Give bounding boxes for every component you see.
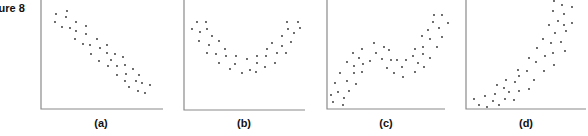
data-point bbox=[265, 55, 267, 57]
data-point bbox=[75, 21, 77, 23]
data-point bbox=[241, 72, 243, 74]
data-point bbox=[478, 104, 480, 106]
data-point bbox=[393, 72, 395, 74]
data-point bbox=[343, 97, 345, 99]
data-point bbox=[218, 62, 220, 64]
data-point bbox=[234, 63, 236, 65]
data-point bbox=[505, 79, 507, 81]
data-point bbox=[362, 63, 364, 65]
data-point bbox=[561, 4, 563, 6]
data-point bbox=[535, 61, 537, 63]
data-point bbox=[373, 42, 375, 44]
data-point bbox=[441, 36, 443, 38]
panel-label-a: (a) bbox=[94, 117, 107, 129]
data-point bbox=[61, 26, 63, 28]
data-point bbox=[498, 104, 500, 106]
data-point bbox=[116, 74, 118, 76]
data-point bbox=[124, 64, 126, 66]
data-point bbox=[353, 72, 355, 74]
data-point bbox=[353, 65, 355, 67]
data-point bbox=[544, 55, 546, 57]
data-point bbox=[557, 20, 559, 22]
data-point bbox=[417, 62, 419, 64]
data-point bbox=[552, 52, 554, 54]
data-point bbox=[423, 66, 425, 68]
data-point bbox=[106, 52, 108, 54]
data-point bbox=[66, 10, 68, 12]
data-point bbox=[503, 87, 505, 89]
data-point bbox=[402, 76, 404, 78]
data-point bbox=[85, 25, 87, 27]
scatter-panel-a bbox=[41, 0, 163, 109]
scatter-panel-c bbox=[327, 0, 449, 109]
data-point bbox=[99, 47, 101, 49]
data-point bbox=[132, 68, 134, 70]
data-point bbox=[137, 90, 139, 92]
data-point bbox=[550, 42, 552, 44]
data-point bbox=[496, 84, 498, 86]
data-point bbox=[543, 70, 545, 72]
data-point bbox=[334, 82, 336, 84]
data-point bbox=[122, 56, 124, 58]
data-point bbox=[486, 106, 488, 108]
data-point bbox=[271, 42, 273, 44]
data-point bbox=[114, 53, 116, 55]
data-point bbox=[396, 59, 398, 61]
data-point bbox=[89, 44, 91, 46]
data-point bbox=[85, 33, 87, 35]
data-point bbox=[381, 58, 383, 60]
data-point bbox=[144, 92, 146, 94]
data-point bbox=[339, 72, 341, 74]
data-point bbox=[215, 53, 217, 55]
data-point bbox=[518, 75, 520, 77]
data-point bbox=[264, 66, 266, 68]
data-point bbox=[199, 31, 201, 33]
data-point bbox=[432, 21, 434, 23]
data-point bbox=[563, 24, 565, 26]
data-point bbox=[297, 21, 299, 23]
data-point bbox=[276, 52, 278, 54]
data-point bbox=[225, 55, 227, 57]
data-point bbox=[191, 28, 193, 30]
data-point bbox=[526, 70, 528, 72]
data-point bbox=[293, 32, 295, 34]
data-point bbox=[492, 100, 494, 102]
data-point bbox=[90, 53, 92, 55]
data-point bbox=[196, 21, 198, 23]
data-point bbox=[246, 58, 248, 60]
data-point bbox=[96, 38, 98, 40]
data-point bbox=[564, 50, 566, 52]
data-point bbox=[342, 104, 344, 106]
data-point bbox=[75, 30, 77, 32]
data-point bbox=[369, 60, 371, 62]
data-point bbox=[266, 48, 268, 50]
panel-label-c: (c) bbox=[379, 117, 392, 129]
data-point bbox=[138, 74, 140, 76]
data-point bbox=[208, 44, 210, 46]
data-point bbox=[508, 91, 510, 93]
data-point bbox=[346, 61, 348, 63]
data-point bbox=[383, 46, 385, 48]
data-point bbox=[386, 67, 388, 69]
data-point bbox=[554, 32, 556, 34]
data-point bbox=[337, 91, 339, 93]
data-point bbox=[281, 45, 283, 47]
data-point bbox=[249, 69, 251, 71]
axes-c bbox=[327, 0, 445, 109]
panel-label-b: (b) bbox=[237, 117, 251, 129]
data-point bbox=[74, 38, 76, 40]
data-point bbox=[235, 55, 237, 57]
data-point bbox=[433, 14, 435, 16]
data-point bbox=[514, 81, 516, 83]
data-point bbox=[560, 41, 562, 43]
data-point bbox=[447, 22, 449, 24]
data-point bbox=[533, 79, 535, 81]
data-point bbox=[421, 35, 423, 37]
data-point bbox=[484, 95, 486, 97]
data-point bbox=[69, 27, 71, 29]
data-point bbox=[405, 59, 407, 61]
data-point bbox=[352, 52, 354, 54]
data-point bbox=[553, 64, 555, 66]
data-point bbox=[299, 27, 301, 29]
data-point bbox=[218, 40, 220, 42]
